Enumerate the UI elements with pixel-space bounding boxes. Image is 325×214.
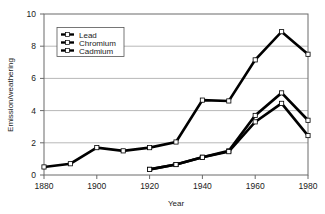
data-point	[42, 165, 46, 169]
x-tick-label-1880: 1880	[35, 181, 54, 191]
x-axis-title: Year	[168, 199, 185, 208]
x-tick-label-1980: 1980	[299, 181, 318, 191]
data-point	[306, 133, 310, 137]
data-point	[174, 162, 178, 166]
data-point	[200, 155, 204, 159]
x-tick-label-1940: 1940	[193, 181, 212, 191]
data-point	[200, 98, 204, 102]
data-point	[306, 52, 310, 56]
x-tick-label-1900: 1900	[87, 181, 106, 191]
legend-swatch-marker-cadmium	[66, 49, 70, 53]
data-point	[148, 167, 152, 171]
data-point	[280, 91, 284, 95]
data-point	[68, 162, 72, 166]
y-tick-label-6: 6	[31, 73, 36, 83]
y-axis-title: Emission/weathering	[6, 58, 15, 132]
data-point	[95, 146, 99, 150]
data-point	[121, 149, 125, 153]
legend-swatch-marker-chromium	[66, 41, 70, 45]
y-tick-label-8: 8	[31, 41, 36, 51]
legend-swatch-marker-lead	[66, 33, 70, 37]
legend: Lead Chromium Cadmium	[57, 28, 124, 57]
data-point	[306, 118, 310, 122]
data-point	[253, 120, 257, 124]
y-tick-label-2: 2	[31, 138, 36, 148]
x-tick-label-1920: 1920	[140, 181, 159, 191]
emission-weathering-line-chart: 0 2 4 6 8 10 Emission/weathering 1880 19…	[0, 0, 325, 214]
x-axis-ticks	[44, 175, 308, 179]
data-point	[227, 150, 231, 154]
data-point	[148, 146, 152, 150]
data-point	[253, 58, 257, 62]
data-point	[253, 113, 257, 117]
chart-container: 0 2 4 6 8 10 Emission/weathering 1880 19…	[0, 0, 325, 214]
y-tick-label-4: 4	[31, 106, 36, 116]
x-tick-label-1960: 1960	[246, 181, 265, 191]
y-tick-label-10: 10	[27, 9, 37, 19]
data-point	[280, 101, 284, 105]
y-tick-label-0: 0	[31, 170, 36, 180]
y-axis-ticks	[40, 14, 44, 175]
data-point	[174, 140, 178, 144]
legend-label-cadmium: Cadmium	[79, 47, 114, 56]
data-point	[280, 30, 284, 34]
data-point	[227, 99, 231, 103]
